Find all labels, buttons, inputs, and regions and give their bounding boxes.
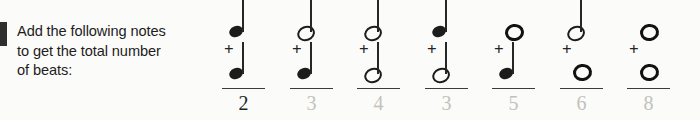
page-edge-marker xyxy=(0,22,7,46)
note-stem xyxy=(445,42,447,74)
half-note xyxy=(283,6,351,44)
quarter-note xyxy=(485,48,553,86)
instruction-line-2: to get the total number xyxy=(17,42,213,62)
addition-problem-3: +4 xyxy=(350,0,418,120)
note-stem xyxy=(242,42,244,74)
top-addend-note xyxy=(283,6,351,44)
instruction-text: Add the following notes to get the total… xyxy=(17,22,213,81)
top-addend-note xyxy=(418,6,486,44)
bottom-addend-note xyxy=(418,48,486,86)
addition-problem-7: +8 xyxy=(620,0,688,120)
note-stem xyxy=(512,42,514,74)
sum-line xyxy=(222,88,265,89)
top-addend-note xyxy=(350,6,418,44)
addition-problem-6: +6 xyxy=(553,0,621,120)
addition-problem-4: +3 xyxy=(418,0,486,120)
half-note-head xyxy=(362,65,384,85)
half-note xyxy=(553,6,621,44)
note-stem xyxy=(310,42,312,74)
addition-problem-5: +5 xyxy=(485,0,553,120)
sum-line xyxy=(290,88,333,89)
bottom-addend-note xyxy=(283,48,351,86)
note-stem xyxy=(377,0,379,32)
note-stem xyxy=(445,0,447,32)
answer-field[interactable]: 6 xyxy=(560,90,603,116)
note-stem xyxy=(242,0,244,32)
instruction-line-3: of beats: xyxy=(17,61,213,81)
whole-note-head xyxy=(504,23,525,42)
sum-line xyxy=(627,88,670,89)
answer-field[interactable]: 3 xyxy=(290,90,333,116)
answer-field[interactable]: 8 xyxy=(627,90,670,116)
whole-note-head xyxy=(639,23,660,42)
answer-field[interactable]: 4 xyxy=(357,90,400,116)
bottom-addend-note xyxy=(553,48,621,86)
bottom-addend-note xyxy=(350,48,418,86)
whole-note xyxy=(553,48,621,86)
addition-problem-1: +2 xyxy=(215,0,283,120)
quarter-note xyxy=(215,6,283,44)
worksheet-page: Add the following notes to get the total… xyxy=(0,0,700,120)
answer-field[interactable]: 2 xyxy=(222,90,265,116)
top-addend-note xyxy=(553,6,621,44)
note-stem xyxy=(580,0,582,32)
problem-row: +2+3+4+3+5+6+8 xyxy=(208,0,700,120)
answer-field[interactable]: 3 xyxy=(425,90,468,116)
whole-note-head xyxy=(639,63,660,82)
bottom-addend-note xyxy=(215,48,283,86)
half-note-head xyxy=(430,65,452,85)
sum-line xyxy=(492,88,535,89)
quarter-note xyxy=(283,48,351,86)
sum-line xyxy=(425,88,468,89)
top-addend-note xyxy=(485,6,553,44)
sum-line xyxy=(560,88,603,89)
whole-note xyxy=(620,48,688,86)
whole-note-head xyxy=(572,63,593,82)
instruction-line-1: Add the following notes xyxy=(17,22,213,42)
answer-field[interactable]: 5 xyxy=(492,90,535,116)
whole-note xyxy=(620,6,688,44)
half-note xyxy=(350,6,418,44)
quarter-note xyxy=(215,48,283,86)
sum-line xyxy=(357,88,400,89)
note-stem xyxy=(377,42,379,74)
bottom-addend-note xyxy=(620,48,688,86)
top-addend-note xyxy=(620,6,688,44)
quarter-note xyxy=(418,6,486,44)
half-note xyxy=(350,48,418,86)
addition-problem-2: +3 xyxy=(283,0,351,120)
half-note xyxy=(418,48,486,86)
whole-note xyxy=(485,6,553,44)
bottom-addend-note xyxy=(485,48,553,86)
note-stem xyxy=(310,0,312,32)
top-addend-note xyxy=(215,6,283,44)
